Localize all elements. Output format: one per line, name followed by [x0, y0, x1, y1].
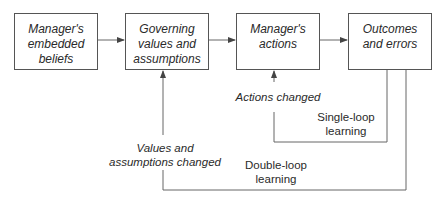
label-actions-changed: Actions changed — [228, 90, 328, 104]
label-single-loop: Single-loop learning — [308, 110, 384, 138]
label-values-changed: Values and assumptions changed — [105, 141, 225, 169]
connectors — [0, 0, 441, 200]
label-double-loop: Double-loop learning — [236, 158, 316, 186]
